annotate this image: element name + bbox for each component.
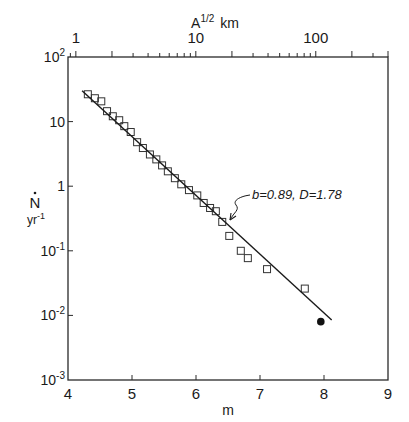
arrowhead-icon — [230, 213, 236, 220]
annotation-text: b=0.89, D=1.78 — [252, 187, 342, 202]
chart: 456789m10210110-110-210-3Nyr-1110100A1/2… — [0, 0, 409, 422]
y-tick-label: 1 — [57, 178, 65, 194]
y-tick-label: 10 — [49, 114, 65, 130]
x-tick-label: 9 — [384, 385, 392, 402]
data-point-square — [226, 232, 233, 239]
x-tick-label: 7 — [256, 385, 264, 402]
plot-border — [68, 57, 388, 380]
annotation: b=0.89, D=1.78 — [230, 187, 342, 220]
y-tick-label: 10-2 — [41, 305, 66, 323]
x-axis-title: m — [222, 402, 234, 418]
y-axis-title-dot — [34, 192, 37, 195]
top-tick-label: 100 — [303, 29, 328, 46]
x-tick-label: 8 — [320, 385, 328, 402]
axis-labels: 456789m10210110-110-210-3Nyr-1110100A1/2… — [27, 13, 392, 418]
data-point-square — [264, 266, 271, 273]
x-tick-label: 4 — [64, 385, 72, 402]
annotation-arrow — [230, 195, 250, 220]
x-tick-label: 5 — [128, 385, 136, 402]
y-tick-label: 10-1 — [41, 241, 66, 259]
top-axis-title: A1/2km — [191, 13, 239, 31]
y-axis-title: N — [30, 194, 41, 211]
top-tick-label: 1 — [72, 29, 80, 46]
data-series — [82, 91, 332, 326]
data-point-square — [301, 285, 308, 292]
plot-frame — [68, 57, 388, 380]
y-axis-units: yr-1 — [27, 211, 45, 227]
x-tick-label: 6 — [192, 385, 200, 402]
y-tick-label: 10-3 — [41, 370, 66, 388]
y-tick-label: 102 — [44, 47, 66, 65]
axis-ticks — [68, 51, 388, 380]
data-point-square — [185, 187, 192, 194]
data-point-filled — [317, 318, 325, 326]
data-point-square — [237, 247, 244, 254]
data-point-square — [244, 255, 251, 262]
top-tick-label: 10 — [187, 29, 204, 46]
fit-line — [82, 91, 332, 320]
